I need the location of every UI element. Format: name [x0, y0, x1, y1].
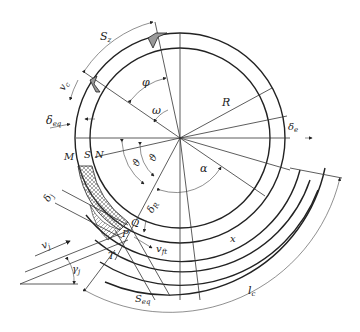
abrasive-grit-top: [148, 33, 167, 48]
radial-line-lower-1: [180, 138, 200, 300]
alpha-arc: [160, 167, 221, 193]
point-S-label: S: [84, 149, 91, 160]
radial-line-SN: [95, 138, 180, 157]
sz-dimension-arc: [85, 22, 153, 70]
delta-j-label: δj: [41, 190, 57, 204]
theta-label-1: ϑ: [130, 157, 143, 169]
x-label: x: [230, 233, 236, 244]
radial-line-alpha: [180, 138, 265, 196]
workpiece-arc-2: [95, 180, 310, 272]
omega-label: ω: [152, 104, 161, 117]
seq-line-1: [115, 230, 155, 300]
vc-label: vc: [56, 79, 72, 94]
point-M-label: M: [63, 151, 75, 162]
contact-zone-crosshatch: [78, 166, 128, 230]
vj-label: vj: [40, 238, 53, 253]
sz-label: Sz: [100, 30, 112, 44]
point-N-label: N: [94, 149, 105, 160]
abrasive-grit-left: [90, 76, 100, 92]
point-T-label: T: [108, 250, 116, 261]
phi-label: φ: [142, 76, 150, 89]
delta-R-arrow: [144, 220, 146, 232]
radial-line-phi: [84, 72, 180, 138]
lc-label: lc: [248, 284, 256, 298]
radial-line-2: [180, 116, 287, 138]
theta-label-2: ϑ: [146, 152, 159, 164]
seq-line-2: [128, 222, 170, 296]
delta-e-label: δe: [288, 121, 298, 134]
vft-label: vft: [156, 243, 167, 256]
workpiece-arc-4: [105, 168, 325, 295]
vc-arrow: [70, 80, 78, 100]
radial-line-right: [180, 138, 290, 170]
seq-label: Seq: [135, 293, 151, 306]
alpha-label: α: [200, 162, 208, 175]
delta-R-label: δR: [145, 199, 162, 215]
grinding-wheel-diagram: Sz vc φ ω R δeq δe M S N ϑ ϑ α δj δR Q P…: [0, 0, 360, 332]
radius-label: R: [221, 96, 230, 109]
point-Q-label: Q: [131, 217, 139, 228]
